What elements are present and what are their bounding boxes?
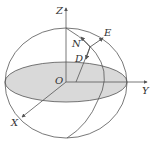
- sphere-diagram: Z Y X O N E D: [0, 0, 155, 144]
- east-label: E: [103, 27, 112, 38]
- y-axis-label: Y: [142, 85, 150, 96]
- x-axis-label: X: [10, 117, 19, 128]
- east-vector: [90, 38, 103, 47]
- north-label: N: [71, 38, 82, 49]
- down-label: D: [74, 53, 83, 64]
- z-axis-label: Z: [55, 5, 64, 16]
- north-vector: [81, 37, 90, 47]
- down-vector: [86, 47, 90, 59]
- origin-label: O: [55, 75, 63, 86]
